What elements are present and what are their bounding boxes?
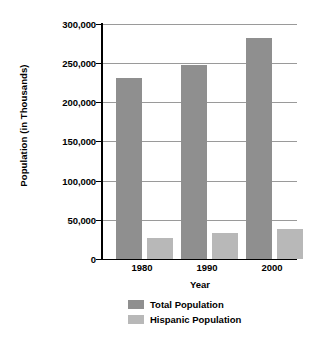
- y-tick-label: 100,000: [20, 176, 96, 187]
- bar-hispanic-population-1990: [212, 233, 238, 259]
- legend-swatch-total-population: [128, 300, 144, 309]
- bar-hispanic-population-1980: [147, 238, 173, 259]
- y-tick-label: 250,000: [20, 58, 96, 69]
- y-axis-line: [101, 23, 103, 260]
- x-axis-title: Year: [100, 279, 210, 290]
- x-tick-label-1990: 1990: [177, 262, 237, 273]
- y-tick-label: 150,000: [20, 136, 96, 147]
- y-axis-tick-labels: 300,000 250,000 200,000 150,000 100,000 …: [16, 0, 96, 342]
- y-tick-label: 200,000: [20, 97, 96, 108]
- bar-total-population-1990: [181, 65, 207, 259]
- bar-total-population-1980: [116, 78, 142, 259]
- legend-label-hispanic-population: Hispanic Population: [150, 314, 241, 325]
- legend-item-hispanic-population: Hispanic Population: [0, 312, 310, 327]
- x-axis-line: [101, 259, 297, 261]
- x-axis-title-wrap: Year: [0, 279, 310, 290]
- bar-chart: Population (in Thousands) 300,000 250,00…: [0, 0, 310, 342]
- legend-label-total-population: Total Population: [150, 299, 224, 310]
- x-tick-label-1980: 1980: [112, 262, 172, 273]
- legend: Total Population Hispanic Population: [0, 297, 310, 327]
- legend-swatch-hispanic-population: [128, 315, 144, 324]
- legend-item-total-population: Total Population: [0, 297, 310, 312]
- bar-total-population-2000: [246, 38, 272, 259]
- y-tick-label: 0: [20, 254, 96, 265]
- bar-hispanic-population-2000: [277, 229, 303, 259]
- y-tick-label: 300,000: [20, 19, 96, 30]
- x-tick-label-2000: 2000: [242, 262, 302, 273]
- bars-layer: [102, 24, 297, 259]
- y-tick-label: 50,000: [20, 215, 96, 226]
